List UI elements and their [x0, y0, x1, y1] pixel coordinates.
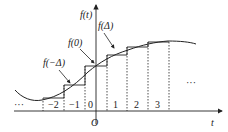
annotation-f-zero: f(0) [68, 37, 83, 49]
interval-label-2: 2 [134, 99, 139, 110]
y-axis-label: f(t) [80, 9, 93, 21]
interval-label-3: 3 [155, 99, 160, 110]
origin-label: O [91, 117, 98, 128]
interval-label-neg2: −2 [48, 99, 59, 110]
interval-label-1: 1 [113, 99, 118, 110]
ellipsis-left: ··· [14, 99, 24, 110]
arrow-f-delta [104, 33, 114, 48]
ellipsis-right: ··· [186, 77, 196, 88]
staircase-approximation [43, 42, 169, 98]
interval-label-neg1: −1 [69, 99, 80, 110]
arrow-f-zero [80, 49, 94, 63]
interval-label-0: 0 [88, 99, 93, 110]
annotation-f-delta: f(Δ) [98, 20, 114, 32]
continuous-curve [15, 41, 196, 101]
staircase-diagram: f(t) t O −2 −1 0 1 2 3 ··· ··· f(−Δ) f(0… [0, 0, 228, 132]
annotation-f-neg-delta: f(−Δ) [43, 57, 66, 69]
interval-dividers [43, 42, 169, 111]
arrow-f-neg-delta [59, 70, 70, 83]
x-axis-label: t [211, 117, 214, 128]
